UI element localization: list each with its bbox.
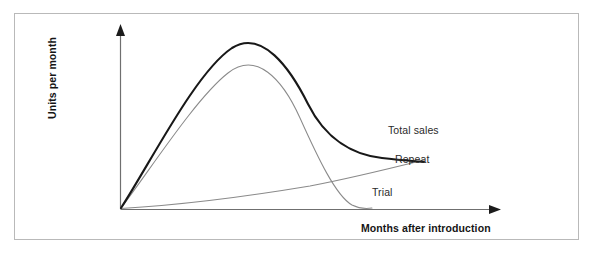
series-curve-repeat bbox=[121, 160, 424, 209]
series-label-total-sales: Total sales bbox=[388, 124, 439, 136]
chart-plot-area bbox=[0, 0, 593, 254]
series-label-repeat: Repeat bbox=[395, 153, 429, 165]
y-axis-arrow-icon bbox=[116, 24, 125, 36]
x-axis-arrow-icon bbox=[489, 205, 501, 214]
series-label-trial: Trial bbox=[372, 186, 393, 198]
series-curve-total-sales bbox=[121, 43, 424, 208]
series-curve-trial bbox=[121, 65, 372, 208]
x-axis-title: Months after introduction bbox=[361, 222, 491, 234]
y-axis-title: Units per month bbox=[46, 13, 58, 143]
figure-container: Total sales Repeat Trial Months after in… bbox=[0, 0, 593, 254]
